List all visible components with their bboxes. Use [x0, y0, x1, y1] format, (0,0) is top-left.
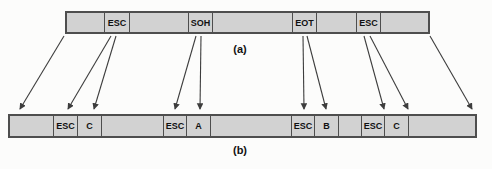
stuffing-arrow: [364, 36, 384, 109]
stuffing-arrow: [200, 36, 201, 109]
frame-b-cell: [339, 116, 362, 136]
frame-a-cell: [381, 13, 428, 32]
frame-a-cell: [317, 13, 357, 32]
frame-a-bar: ESC SOH EOT ESC: [65, 11, 430, 34]
stuffing-arrow: [94, 36, 116, 109]
frame-b-cell-c: C: [78, 116, 102, 136]
frame-a-cell-esc: ESC: [105, 13, 130, 32]
byte-stuffing-diagram: ESC SOH EOT ESC (a) ESC C ESC A ESC B ES…: [0, 0, 492, 169]
frame-a-cell: [130, 13, 189, 32]
frame-b-cell: [10, 116, 54, 136]
stuffing-arrow: [430, 36, 472, 109]
frame-b-cell-a: A: [187, 116, 211, 136]
frame-a-cell-eot: EOT: [293, 13, 317, 32]
stuffing-arrow: [303, 36, 304, 109]
frame-a-cell: [67, 13, 105, 32]
frame-b-bar: ESC C ESC A ESC B ESC C: [8, 114, 477, 138]
stuffing-arrow: [20, 36, 64, 109]
frame-b-cell-esc: ESC: [292, 116, 315, 136]
stuffing-arrow: [370, 36, 408, 109]
stuffing-arrow: [68, 36, 111, 109]
frame-b-cell-c: C: [385, 116, 409, 136]
frame-a-cell: [213, 13, 293, 32]
frame-b-cell-esc: ESC: [54, 116, 78, 136]
frame-b-cell: [102, 116, 164, 136]
frame-b-cell: [409, 116, 475, 136]
stuffing-arrow: [175, 36, 196, 109]
frame-b-cell-esc: ESC: [362, 116, 385, 136]
frame-a-label: (a): [220, 43, 260, 55]
frame-b-cell-esc: ESC: [164, 116, 187, 136]
frame-a-cell-esc: ESC: [357, 13, 381, 32]
frame-b-label: (b): [220, 144, 260, 156]
stuffing-arrow: [307, 36, 326, 109]
frame-b-cell: [211, 116, 292, 136]
frame-a-cell-soh: SOH: [189, 13, 213, 32]
frame-b-cell-b: B: [315, 116, 339, 136]
